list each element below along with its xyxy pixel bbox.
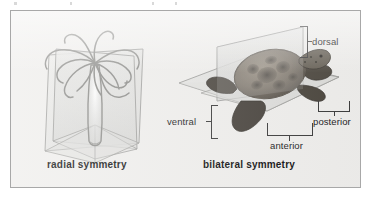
bilateral-symmetry-caption: bilateral symmetry [203,159,295,170]
radial-symmetry-illustration [11,13,176,163]
label-ventral: ventral [167,116,196,127]
radial-symmetry-panel: radial symmetry [11,11,176,187]
figure-panel: radial symmetry [10,10,361,188]
bilateral-symmetry-panel: dorsal ventral anterior [171,11,361,187]
label-dorsal: dorsal [312,36,338,47]
radial-symmetry-caption: radial symmetry [47,159,127,170]
figure-root: radial symmetry [0,0,371,199]
top-cutoff-text-remnants [0,0,371,7]
label-posterior: posterior [313,116,351,127]
sagittal-plane-overlay [217,27,303,101]
label-anterior: anterior [270,140,303,151]
